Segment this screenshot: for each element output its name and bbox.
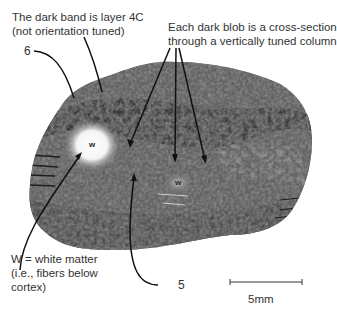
annotation-dark-blobs: Each dark blob is a cross-section throug… — [168, 20, 337, 48]
annotation-line: Each dark blob is a cross-section — [168, 20, 337, 34]
scale-bar-label: 5mm — [248, 292, 274, 306]
annotation-line: W = white matter — [11, 252, 98, 266]
tissue-section — [20, 55, 320, 255]
annotation-layer-4c: The dark band is layer 4C (not orientati… — [12, 10, 144, 38]
white-matter-marker-small: w — [175, 178, 181, 187]
annotation-line: The dark band is layer 4C — [12, 10, 144, 24]
layer-5-label: 5 — [178, 278, 185, 292]
layer-6-label: 6 — [24, 44, 31, 58]
annotation-line: (i.e., fibers below — [11, 266, 98, 280]
white-matter-marker-large: w — [89, 140, 95, 149]
scale-bar — [230, 279, 302, 285]
annotation-line: cortex) — [11, 280, 98, 294]
annotation-white-matter: W = white matter (i.e., fibers below cor… — [11, 252, 98, 294]
annotation-line: through a vertically tuned column — [168, 34, 337, 48]
annotation-line: (not orientation tuned) — [12, 24, 144, 38]
